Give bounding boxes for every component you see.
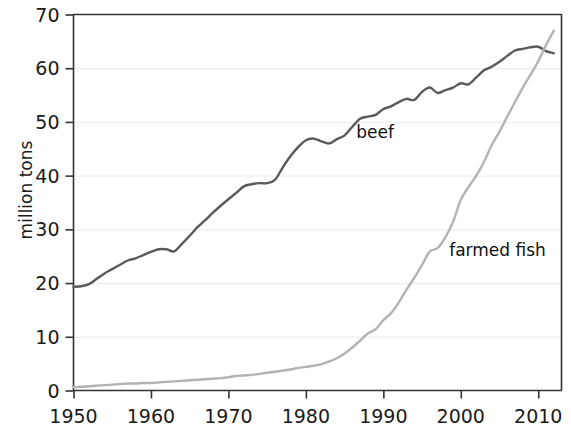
- series-lines: [74, 31, 554, 388]
- x-tick-label: 2010: [514, 405, 562, 427]
- plot-area: 010203040506070 195019601970198019902000…: [0, 0, 571, 442]
- x-tick-label: 1990: [359, 405, 407, 427]
- x-tick-label: 1950: [49, 405, 97, 427]
- y-tick-label: 10: [35, 326, 59, 348]
- plot-frame: [73, 14, 562, 391]
- series-annotation-farmed-fish: farmed fish: [449, 240, 546, 260]
- gridlines: [74, 69, 562, 338]
- x-tick-label: 1960: [127, 405, 175, 427]
- x-axis-ticks: 1950196019701980199020002010: [49, 391, 562, 427]
- y-tick-label: 40: [35, 165, 59, 187]
- y-tick-label: 30: [35, 218, 59, 240]
- y-axis-ticks: 010203040506070: [35, 4, 73, 402]
- series-line-farmed_fish: [74, 31, 554, 388]
- x-tick-label: 1980: [282, 405, 330, 427]
- x-tick-label: 2000: [437, 405, 485, 427]
- y-tick-label: 20: [35, 272, 59, 294]
- series-annotations: beeffarmed fish: [356, 122, 546, 260]
- y-tick-label: 0: [47, 380, 59, 402]
- y-tick-label: 60: [35, 57, 59, 79]
- y-tick-label: 70: [35, 4, 59, 26]
- y-tick-label: 50: [35, 111, 59, 133]
- x-tick-label: 1970: [204, 405, 252, 427]
- series-annotation-beef: beef: [356, 122, 395, 142]
- line-chart: million tons 010203040506070 19501960197…: [0, 0, 571, 442]
